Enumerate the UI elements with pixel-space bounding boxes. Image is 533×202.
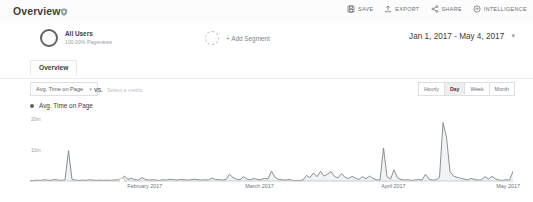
share-button[interactable]: SHARE — [431, 5, 462, 13]
share-icon — [431, 5, 439, 13]
chevron-down-icon: ▾ — [511, 32, 515, 40]
metric-selector-row: Avg. Time on Page ▾ VS. Select a metric … — [0, 80, 533, 100]
add-segment-button[interactable]: + Add Segment — [205, 31, 270, 45]
intelligence-label: INTELLIGENCE — [484, 6, 527, 12]
add-segment-label: + Add Segment — [226, 35, 270, 42]
date-range-picker[interactable]: Jan 1, 2017 - May 4, 2017 ▾ — [409, 32, 515, 41]
shield-icon — [60, 8, 68, 16]
chart-plot-area[interactable] — [30, 112, 513, 182]
save-icon — [347, 5, 355, 13]
legend-dot-icon — [30, 104, 34, 108]
segment-bar: All Users 100.00% Pageviews + Add Segmen… — [0, 23, 533, 59]
x-axis-labels: February 2017 March 2017 April 2017 May … — [0, 183, 533, 195]
chart-legend: Avg. Time on Page — [30, 102, 93, 109]
intelligence-icon — [473, 5, 481, 13]
save-button[interactable]: SAVE — [347, 5, 373, 13]
intelligence-button[interactable]: INTELLIGENCE — [473, 5, 527, 13]
x-axis-label-march: March 2017 — [245, 183, 273, 189]
export-label: EXPORT — [395, 6, 419, 12]
x-axis-label-may: May 2017 — [496, 183, 520, 189]
segment-ring-icon — [40, 29, 58, 47]
x-axis-label-february: February 2017 — [127, 183, 162, 189]
vs-label: VS. — [94, 87, 103, 93]
segment-all-users[interactable]: All Users 100.00% Pageviews — [40, 29, 112, 47]
chevron-down-icon: ▾ — [89, 86, 92, 92]
granularity-month[interactable]: Month — [490, 83, 514, 95]
granularity-day[interactable]: Day — [445, 83, 466, 95]
segment-sublabel: 100.00% Pageviews — [65, 39, 112, 46]
granularity-toggle-group: Hourly Day Week Month — [418, 82, 515, 96]
primary-metric-label: Avg. Time on Page — [36, 86, 83, 92]
export-button[interactable]: EXPORT — [384, 5, 419, 13]
analytics-overview-report: Overview SAVE — [0, 0, 533, 202]
tab-strip: Overview — [0, 58, 533, 79]
granularity-hourly[interactable]: Hourly — [419, 83, 445, 95]
save-label: SAVE — [358, 6, 373, 12]
x-axis-label-april: April 2017 — [381, 183, 405, 189]
chart-svg — [30, 112, 513, 182]
tab-overview[interactable]: Overview — [30, 60, 77, 76]
segment-name: All Users — [65, 30, 112, 38]
date-range-label: Jan 1, 2017 - May 4, 2017 — [409, 32, 504, 41]
legend-label: Avg. Time on Page — [39, 102, 93, 109]
segment-text: All Users 100.00% Pageviews — [65, 30, 112, 46]
granularity-week[interactable]: Week — [465, 83, 489, 95]
export-icon — [384, 5, 392, 13]
primary-metric-select[interactable]: Avg. Time on Page ▾ — [30, 82, 98, 96]
secondary-metric-select[interactable]: Select a metric — [107, 87, 143, 93]
report-header: Overview SAVE — [0, 0, 533, 24]
timeseries-chart: Avg. Time on Page 20m 10m February 2017 … — [0, 100, 533, 202]
chart-hover-marker — [119, 178, 125, 182]
share-label: SHARE — [442, 6, 462, 12]
add-segment-ring-icon — [205, 31, 219, 45]
report-toolbar: SAVE EXPORT — [347, 5, 527, 13]
page-title: Overview — [13, 5, 61, 17]
